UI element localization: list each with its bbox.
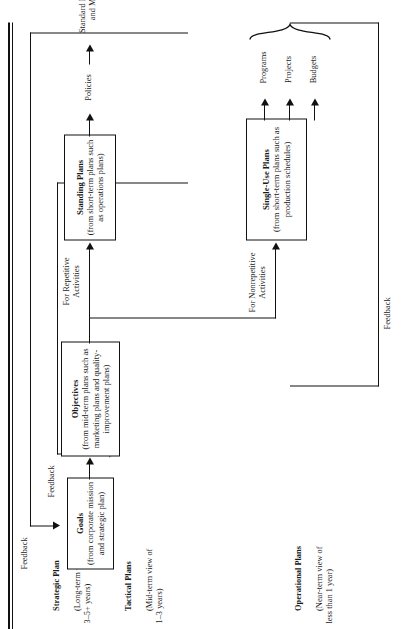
- box-single-use-plans-sub: (from short-term plans such as productio…: [271, 119, 291, 239]
- row-label-operational: Operational Plans (Near-term view of les…: [284, 546, 346, 623]
- branch-repetitive-line: [89, 248, 90, 318]
- rotated-figure-wrapper: Strategic Plan (Long-term view of 3–5+ y…: [0, 0, 406, 629]
- page-rule-outer: [8, 22, 10, 629]
- connector-objectives-to-split: [89, 317, 90, 343]
- diagram-canvas: Strategic Plan (Long-term view of 3–5+ y…: [0, 0, 406, 629]
- box-goals-title: Goals: [75, 478, 85, 568]
- feedback-label-3: Feedback: [20, 537, 29, 569]
- connector-single-use-to-projects: [289, 104, 290, 120]
- output-projects: Projects: [284, 43, 294, 95]
- feedback-line-2-horizontal: [57, 182, 58, 454]
- box-objectives-title: Objectives: [70, 342, 80, 455]
- box-goals[interactable]: Goals (from corporate mission and strate…: [67, 477, 114, 569]
- branch-label-repetitive: For Repetitive Activities: [62, 249, 83, 313]
- row-label-tactical-sub: (Mid-term view of 1–3 years): [145, 548, 164, 623]
- arrow-single-use-to-budgets: [311, 98, 319, 105]
- row-label-strategic-title: Strategic Plan: [52, 560, 61, 610]
- row-label-tactical-title: Tactical Plans: [124, 561, 133, 611]
- branch-nonrepetitive-arrow: [272, 242, 280, 249]
- feedback-line-3-vertical-right: [30, 32, 188, 33]
- feedback-label-2: Feedback: [47, 465, 56, 497]
- output-standard-procedures: Standard Procedures and Methods: [78, 0, 99, 41]
- feedback-line-3-vertical-left: [30, 525, 55, 526]
- feedback-label-1: Feedback: [383, 297, 392, 329]
- arrow-policies-to-procedures: [86, 44, 94, 51]
- connector-goals-to-objectives: [89, 463, 90, 479]
- connector-single-use-to-budgets: [314, 104, 315, 120]
- feedback-line-3-horizontal: [30, 32, 31, 526]
- output-budgets: Budgets: [309, 43, 319, 95]
- connector-single-use-to-programs: [264, 104, 265, 120]
- output-programs: Programs: [259, 39, 269, 95]
- feedback-line-bottom-vertical-right: [290, 22, 379, 23]
- box-goals-sub: (from corporate mission and strategic pl…: [85, 478, 105, 568]
- box-single-use-plans[interactable]: Single-Use Plans (from short-term plans …: [246, 118, 307, 240]
- box-objectives[interactable]: Objectives (from mid-term plans such as …: [61, 341, 120, 456]
- row-label-tactical: Tactical Plans (Mid-term view of 1–3 yea…: [114, 548, 176, 623]
- feedback-line-bottom-vertical-left: [290, 385, 379, 386]
- connector-standing-to-policies: [89, 119, 90, 136]
- box-single-use-plans-title: Single-Use Plans: [261, 119, 271, 239]
- arrow-standing-to-policies: [86, 113, 94, 120]
- arrow-single-use-to-projects: [286, 98, 294, 105]
- row-label-operational-sub: (Near-term view of less than 1 year): [315, 546, 334, 623]
- box-standing-plans[interactable]: Standing Plans (from short-term plans su…: [64, 134, 116, 240]
- output-policies: Policies: [84, 64, 94, 110]
- branch-repetitive-arrow: [86, 242, 94, 249]
- page-rule-inner: [12, 22, 13, 629]
- row-label-operational-title: Operational Plans: [294, 546, 303, 611]
- feedback-line-bottom-horizontal: [378, 22, 379, 386]
- branch-nonrepetitive-line: [275, 248, 276, 318]
- box-objectives-sub: (from mid-term plans such as marketing p…: [80, 342, 110, 455]
- arrow-goals-to-objectives: [86, 457, 94, 464]
- box-standing-plans-title: Standing Plans: [75, 135, 85, 239]
- single-use-outputs-brace: [248, 21, 332, 41]
- arrow-single-use-to-programs: [261, 98, 269, 105]
- box-standing-plans-sub: (from short-term plans such as operation…: [85, 135, 105, 239]
- feedback-arrow-3: [53, 522, 60, 530]
- branch-label-nonrepetitive: For Nonrepetitive Activities: [248, 247, 269, 317]
- connector-policies-to-procedures: [89, 50, 90, 64]
